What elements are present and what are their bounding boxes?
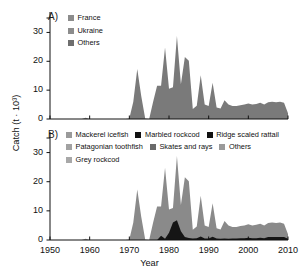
panel-b-letter: B) bbox=[48, 129, 58, 140]
legend-item: Patagonian toothfish bbox=[66, 142, 143, 152]
legend-label-grey-rockcod: Grey rockcod bbox=[76, 155, 120, 165]
panel-b: B) Mackerel icefish Marbled rockcod Ridg… bbox=[0, 126, 299, 246]
y-axis-title: Catch (t · 10³) bbox=[11, 63, 21, 183]
legend-swatch-patagonian-toothfish bbox=[66, 144, 72, 150]
legend-row: Mackerel icefish Marbled rockcod Ridge s… bbox=[66, 130, 298, 140]
panel-a-letter: A) bbox=[48, 11, 58, 22]
legend-label-patagonian-toothfish: Patagonian toothfish bbox=[76, 142, 143, 152]
legend-row: Patagonian toothfish Skates and rays Oth… bbox=[66, 142, 298, 152]
y-tick-label: 0 bbox=[17, 113, 43, 123]
x-tick-label: 2010 bbox=[271, 245, 299, 255]
x-tick-label: 1960 bbox=[73, 245, 107, 255]
x-tick-label: 1980 bbox=[152, 245, 186, 255]
legend-item: Others bbox=[219, 142, 251, 152]
legend-swatch-mackerel-icefish bbox=[66, 132, 72, 138]
y-tick-label: 20 bbox=[17, 55, 43, 65]
legend-label-marbled-rockcod: Marbled rockcod bbox=[145, 130, 200, 140]
y-tick-label: 30 bbox=[17, 26, 43, 36]
legend-swatch-others bbox=[68, 40, 74, 46]
legend-label-france: France bbox=[78, 13, 101, 23]
legend-label-skates-and-rays: Skates and rays bbox=[159, 142, 212, 152]
y-tick-label: 10 bbox=[17, 84, 43, 94]
legend-swatch-skates-and-rays bbox=[150, 144, 156, 150]
legend-row: Grey rockcod bbox=[66, 155, 298, 165]
legend-item: Mackerel icefish bbox=[66, 130, 128, 140]
legend-item: Ridge scaled rattail bbox=[207, 130, 279, 140]
x-tick-label: 1950 bbox=[33, 245, 67, 255]
legend-item: France bbox=[68, 13, 103, 23]
legend-label-ukraine: Ukraine bbox=[78, 26, 103, 36]
panel-a-legend: France Ukraine Others bbox=[68, 13, 103, 51]
legend-swatch-others bbox=[219, 144, 225, 150]
x-tick-label: 2000 bbox=[231, 245, 265, 255]
legend-item: Marbled rockcod bbox=[135, 130, 199, 140]
legend-label-ridge-scaled-rattail: Ridge scaled rattail bbox=[216, 130, 279, 140]
panel-b-legend: Mackerel icefish Marbled rockcod Ridge s… bbox=[66, 130, 298, 167]
x-tick-label: 1990 bbox=[192, 245, 226, 255]
legend-item: Grey rockcod bbox=[66, 155, 119, 165]
legend-swatch-ukraine bbox=[68, 28, 74, 34]
legend-item: Others bbox=[68, 38, 103, 48]
legend-label-others: Others bbox=[78, 38, 100, 48]
legend-label-others: Others bbox=[229, 142, 251, 152]
panel-a: A) France Ukraine Others bbox=[0, 0, 299, 132]
figure-container: A) France Ukraine Others B) Macke bbox=[0, 0, 299, 272]
legend-label-mackerel-icefish: Mackerel icefish bbox=[76, 130, 129, 140]
panel-a-plot bbox=[0, 0, 299, 132]
y-tick-label: 0 bbox=[17, 234, 43, 244]
y-tick-label: 30 bbox=[17, 147, 43, 157]
legend-swatch-ridge-scaled-rattail bbox=[207, 132, 213, 138]
x-axis-title: Year bbox=[0, 258, 299, 268]
y-tick-label: 20 bbox=[17, 176, 43, 186]
x-tick-label: 1970 bbox=[112, 245, 146, 255]
legend-item: Skates and rays bbox=[150, 142, 213, 152]
legend-swatch-france bbox=[68, 15, 74, 21]
y-tick-label: 10 bbox=[17, 205, 43, 215]
area-mackerel-icefish bbox=[50, 156, 288, 240]
legend-swatch-grey-rockcod bbox=[66, 157, 72, 163]
legend-item: Ukraine bbox=[68, 26, 103, 36]
legend-swatch-marbled-rockcod bbox=[135, 132, 141, 138]
